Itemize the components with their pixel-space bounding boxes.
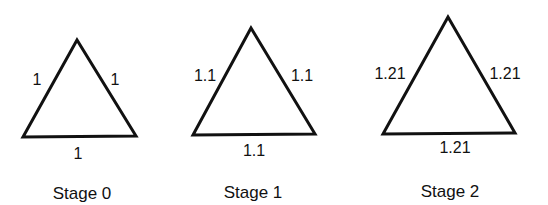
triangles-canvas	[0, 0, 548, 205]
stage-1-right-side-label: 1.1	[291, 68, 313, 84]
triangle-stage-0	[23, 40, 136, 137]
stage-0-title: Stage 0	[53, 185, 112, 202]
stage-2-left-side-label: 1.21	[374, 66, 405, 82]
stage-2-bottom-side-label: 1.21	[439, 140, 470, 156]
stage-0-right-side-label: 1	[111, 72, 120, 88]
stage-0-left-side-label: 1	[33, 72, 42, 88]
stage-1-title: Stage 1	[224, 184, 283, 201]
stage-0-bottom-side-label: 1	[74, 146, 83, 162]
stage-2-right-side-label: 1.21	[489, 66, 520, 82]
stage-1-left-side-label: 1.1	[194, 68, 216, 84]
stage-1-bottom-side-label: 1.1	[243, 143, 265, 159]
stage-2-title: Stage 2	[421, 183, 480, 200]
